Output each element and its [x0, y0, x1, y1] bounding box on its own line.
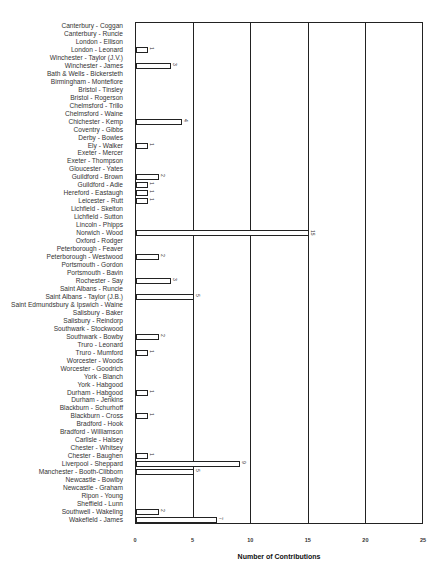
bar: [136, 143, 148, 149]
category-label: Worcester - Woods: [67, 357, 123, 365]
category-label: Saint Albans - Taylor (J.B.): [45, 293, 123, 301]
bar: [136, 469, 194, 475]
category-label: Bristol - Rogerson: [70, 94, 123, 102]
category-label: London - Leonard: [71, 46, 123, 54]
category-label: Bath & Wells - Bickersteth: [47, 70, 123, 78]
category-label: Norwich - Wood: [76, 229, 123, 237]
bar-value-label: 5: [195, 469, 201, 472]
bar: [136, 509, 159, 515]
category-label: Peterborough - Westwood: [47, 253, 123, 261]
bar: [136, 119, 182, 125]
bar: [136, 182, 148, 188]
category-label: Truro - Mumford: [76, 349, 123, 357]
category-label: Lichfield - Skelton: [71, 205, 123, 213]
bar-value-label: 9: [241, 461, 247, 464]
category-label: Chester - Baughen: [68, 452, 123, 460]
category-label: Blackburn - Cross: [71, 412, 123, 420]
category-label: Salisbury - Reindorp: [63, 317, 123, 325]
bar: [136, 254, 159, 260]
bar: [136, 174, 159, 180]
bar: [136, 230, 309, 236]
bar-value-label: 5: [195, 294, 201, 297]
bar-value-label: 1: [149, 143, 155, 146]
x-tick-label: 5: [191, 537, 194, 543]
bar: [136, 47, 148, 53]
category-label: Durham - Jenkins: [71, 396, 123, 404]
category-label: Wakefield - James: [69, 516, 123, 524]
category-label: Chelmsford - Waine: [65, 110, 123, 118]
bar-value-label: 2: [160, 334, 166, 337]
category-label: Rochester - Say: [76, 277, 123, 285]
bar-value-label: 1: [149, 413, 155, 416]
category-label: Canterbury - Runcie: [64, 30, 123, 38]
bar-value-label: 2: [160, 254, 166, 257]
bar-value-label: 1: [149, 453, 155, 456]
bar: [136, 453, 148, 459]
bar-value-label: 2: [160, 509, 166, 512]
category-label: Liverpool - Sheppard: [62, 460, 123, 468]
bar: [136, 63, 171, 69]
plot-area: 1341211115235211119527: [135, 22, 423, 524]
bar-value-label: 1: [149, 350, 155, 353]
bar-value-label: 1: [149, 47, 155, 50]
category-label: Newcastle - Graham: [63, 484, 123, 492]
category-label: London - Ellison: [76, 38, 123, 46]
category-label: Worcester - Goodrich: [60, 365, 123, 373]
category-label: Southwark - Bowby: [66, 333, 123, 341]
category-label: Bradford - Hook: [76, 420, 123, 428]
bar: [136, 350, 148, 356]
category-label: Sheffield - Lunn: [77, 500, 123, 508]
bar-value-label: 1: [149, 198, 155, 201]
category-label: Guildford - Adie: [78, 181, 123, 189]
category-label: Blackburn - Schurhoff: [60, 404, 123, 412]
bar: [136, 334, 159, 340]
category-label: Carlisle - Halsey: [75, 436, 123, 444]
category-label: Derby - Bowles: [78, 134, 123, 142]
category-label: Ripon - Young: [82, 492, 123, 500]
x-tick-label: 0: [133, 537, 136, 543]
bar: [136, 278, 171, 284]
bar: [136, 461, 240, 467]
category-label: Portsmouth - Gordon: [61, 261, 123, 269]
bar-value-label: 15: [310, 230, 316, 236]
category-label: Saint Albans - Runcie: [60, 285, 123, 293]
category-label: Portsmouth - Bavin: [67, 269, 123, 277]
category-label: Exeter - Thompson: [67, 157, 123, 165]
category-label: Birmingham - Montefiore: [51, 78, 123, 86]
category-label: Salisbury - Baker: [73, 309, 123, 317]
category-label: Lichfield - Sutton: [74, 213, 123, 221]
category-label: Oxford - Rodger: [76, 237, 123, 245]
category-label: Bradford - Williamson: [60, 428, 123, 436]
bar: [136, 517, 217, 523]
bar-value-label: 4: [183, 119, 189, 122]
bar-chart: Canterbury - CogganCanterbury - RuncieLo…: [0, 0, 440, 564]
bar-value-label: 1: [149, 182, 155, 185]
gridline: [308, 23, 309, 523]
bar-value-label: 1: [149, 190, 155, 193]
x-tick-label: 15: [305, 537, 311, 543]
category-label: York - Habgood: [77, 381, 123, 389]
gridline: [193, 23, 194, 523]
category-label: Bristol - Tinsley: [78, 86, 123, 94]
gridline: [365, 23, 366, 523]
bar-value-label: 7: [218, 517, 224, 520]
category-label: Durham - Habgood: [67, 389, 123, 397]
bar: [136, 413, 148, 419]
category-label: Chelmsford - Trillo: [70, 102, 124, 110]
category-label: Guildford - Brown: [72, 173, 123, 181]
category-label: Canterbury - Coggan: [61, 22, 123, 30]
bar-value-label: 2: [160, 174, 166, 177]
bar: [136, 190, 148, 196]
category-label: Southwell - Wakeling: [62, 508, 123, 516]
category-label: Gloucester - Yates: [69, 165, 123, 173]
x-tick-label: 10: [247, 537, 253, 543]
category-label: Saint Edmundsbury & Ipswich - Waine: [11, 301, 123, 309]
x-tick-label: 25: [420, 537, 426, 543]
bar-value-label: 3: [172, 278, 178, 281]
category-label: Hereford - Eastaugh: [64, 189, 123, 197]
bar: [136, 390, 148, 396]
bar-value-label: 3: [172, 63, 178, 66]
x-tick-label: 20: [362, 537, 368, 543]
category-label: Manchester - Booth-Clibborn: [39, 468, 123, 476]
bar-value-label: 1: [149, 390, 155, 393]
